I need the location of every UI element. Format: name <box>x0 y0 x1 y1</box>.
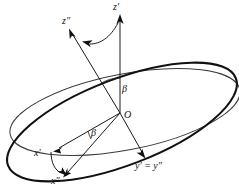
axis-x-double-prime <box>63 113 120 178</box>
axis-z-double-prime <box>69 29 120 114</box>
label-beta-lower: β <box>91 128 96 138</box>
label-z-prime: z′ <box>113 2 119 12</box>
label-origin: O <box>124 110 131 120</box>
arrowhead-x-prime <box>53 147 63 154</box>
axis-z-prime <box>116 14 123 113</box>
label-x-prime: x′ <box>34 148 41 158</box>
axis-x-prime <box>53 113 120 154</box>
figure-canvas <box>0 0 239 195</box>
label-x-double-prime: x″ <box>51 176 60 186</box>
label-y-equals: y′ = y″ <box>135 161 162 171</box>
euler-angle-figure: z′ z″ β O β x′ x″ y′ = y″ <box>0 0 239 195</box>
rotation-arc-top <box>82 23 118 47</box>
label-z-double-prime: z″ <box>62 16 70 26</box>
label-beta-upper: β <box>122 84 127 94</box>
